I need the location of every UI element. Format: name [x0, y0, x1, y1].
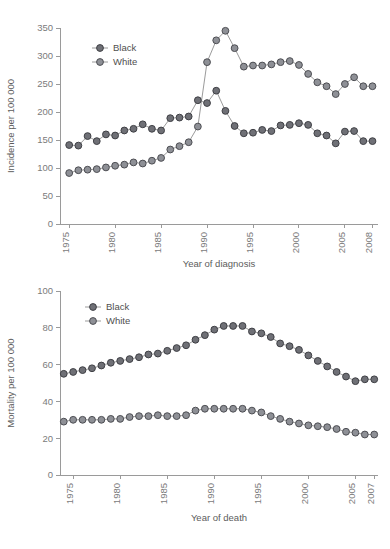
data-point-black	[201, 332, 208, 339]
data-point-black	[66, 142, 73, 149]
data-point-black	[259, 127, 266, 134]
data-point-white	[103, 164, 110, 171]
data-point-white	[139, 160, 146, 167]
data-point-black	[333, 369, 340, 376]
y-tick-label: 100	[37, 162, 53, 173]
data-point-white	[323, 83, 330, 90]
data-point-white	[107, 415, 114, 422]
y-tick-label: 20	[42, 433, 53, 444]
data-point-black	[323, 132, 330, 139]
data-point-black	[286, 121, 293, 128]
data-point-white	[130, 159, 137, 166]
data-point-black	[249, 328, 256, 335]
data-point-black	[136, 354, 143, 361]
y-tick-label: 50	[42, 190, 53, 201]
data-point-black	[371, 376, 378, 383]
data-point-white	[286, 58, 293, 65]
data-point-white	[352, 429, 359, 436]
legend-label-black: Black	[106, 301, 129, 312]
data-point-black	[130, 125, 137, 132]
data-point-black	[222, 107, 229, 114]
data-point-white	[286, 418, 293, 425]
data-point-black	[277, 340, 284, 347]
x-tick-label: 2000	[299, 483, 310, 504]
data-point-white	[296, 62, 303, 69]
x-tick-label: 2008	[363, 232, 374, 253]
data-point-black	[231, 123, 238, 130]
data-point-white	[126, 414, 133, 421]
y-axis-title: Incidence per 100 000	[5, 79, 16, 173]
x-tick-label: 1980	[106, 232, 117, 253]
data-point-black	[343, 373, 350, 380]
data-point-white	[342, 81, 349, 88]
data-point-white	[314, 423, 321, 430]
data-point-white	[305, 422, 312, 429]
x-tick-label: 1985	[158, 483, 169, 504]
data-point-white	[98, 416, 105, 423]
data-point-white	[211, 405, 218, 412]
data-point-black	[185, 113, 192, 120]
data-point-black	[250, 129, 257, 136]
data-point-white	[371, 431, 378, 438]
data-point-white	[164, 413, 171, 420]
x-tick-label: 2005	[336, 232, 347, 253]
x-axis-title: Year of death	[191, 512, 247, 523]
data-point-black	[240, 130, 247, 137]
data-point-black	[173, 345, 180, 352]
data-point-white	[75, 167, 82, 174]
mortality-chart-svg: 0204060801001975198019851990199520002005…	[0, 275, 390, 549]
data-point-white	[167, 146, 174, 153]
data-point-black	[103, 131, 110, 138]
data-point-black	[70, 369, 77, 376]
data-point-white	[268, 61, 275, 68]
x-tick-label: 2000	[290, 232, 301, 253]
data-point-black	[268, 128, 275, 135]
y-tick-label: 250	[37, 78, 53, 89]
data-point-white	[185, 139, 192, 146]
data-point-black	[305, 352, 312, 359]
data-point-black	[164, 347, 171, 354]
data-point-white	[360, 83, 367, 90]
data-point-black	[75, 142, 82, 149]
x-tick-label: 1995	[252, 483, 263, 504]
data-point-white	[333, 426, 340, 433]
legend-label-black: Black	[113, 42, 136, 53]
data-point-black	[369, 138, 376, 145]
data-point-white	[121, 161, 128, 168]
y-tick-label: 300	[37, 50, 53, 61]
data-point-white	[192, 407, 199, 414]
data-point-black	[305, 121, 312, 128]
legend-marker-white	[97, 59, 104, 66]
data-point-black	[286, 343, 293, 350]
data-point-white	[258, 409, 265, 416]
data-point-black	[117, 358, 124, 365]
y-axis-title: Mortality per 100 000	[5, 338, 16, 427]
data-point-white	[324, 424, 331, 431]
data-point-black	[154, 350, 161, 357]
data-point-white	[277, 59, 284, 66]
chart-panel-incidence: 0501001502002503003501975198019851990199…	[0, 0, 390, 275]
data-point-white	[231, 45, 238, 52]
data-point-black	[324, 363, 331, 370]
x-tick-label: 1985	[152, 232, 163, 253]
figure-root: 0501001502002503003501975198019851990199…	[0, 0, 390, 549]
data-point-black	[192, 336, 199, 343]
series-line-black	[64, 326, 374, 381]
legend-label-white: White	[113, 56, 137, 67]
data-point-white	[361, 431, 368, 438]
data-point-white	[60, 418, 67, 425]
legend-marker-white	[90, 318, 97, 325]
x-tick-label: 2007	[365, 483, 376, 504]
data-point-white	[93, 166, 100, 173]
data-point-black	[89, 365, 96, 372]
data-point-white	[84, 166, 91, 173]
data-point-black	[176, 114, 183, 121]
x-axis-title: Year of diagnosis	[183, 258, 256, 269]
data-point-white	[79, 416, 86, 423]
data-point-white	[250, 62, 257, 69]
data-point-white	[70, 416, 77, 423]
data-point-black	[167, 115, 174, 122]
data-point-black	[230, 323, 237, 330]
y-tick-label: 350	[37, 22, 53, 33]
data-point-black	[342, 128, 349, 135]
